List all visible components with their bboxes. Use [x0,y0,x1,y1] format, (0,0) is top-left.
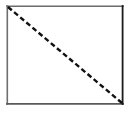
figure-canvas: Rectangle with dashed diagonal A plain r… [0,0,140,113]
figure-drawing [0,0,140,113]
